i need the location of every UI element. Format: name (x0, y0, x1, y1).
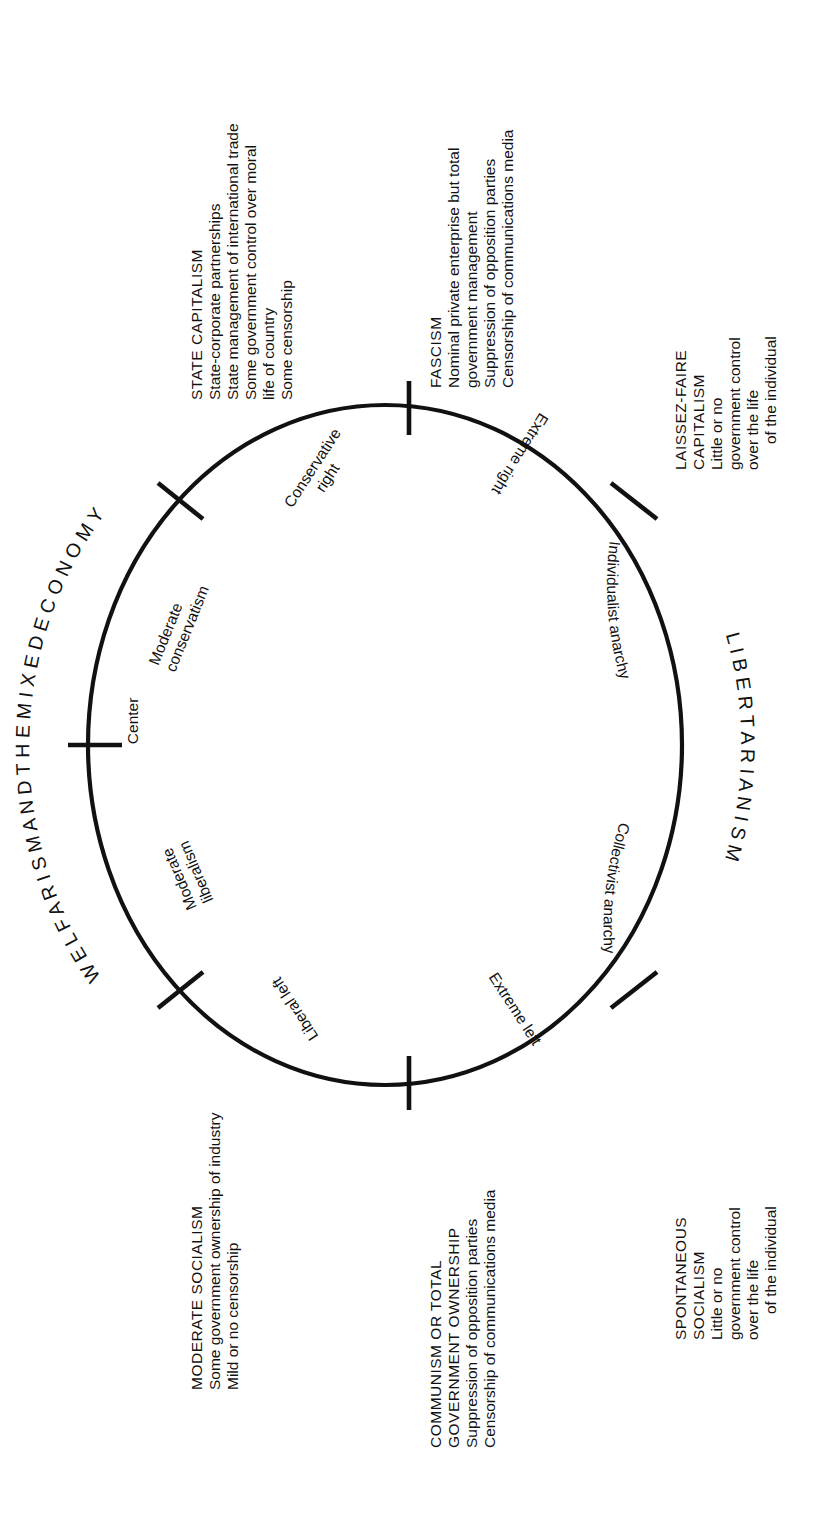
laissez-faire-line-1: of the individual (762, 318, 780, 444)
circle-outline (88, 405, 682, 1085)
fascism-line-1: government management (463, 130, 481, 388)
communism-heading2: GOVERNMENT OWNERSHIP (445, 1190, 463, 1448)
individualist-anarchy-label: Individualist anarchy (604, 540, 634, 681)
block-spontaneous-socialism: SPONTANEOUS SOCIALISM Little or no gover… (672, 1188, 780, 1340)
spontaneous-socialism-heading: SPONTANEOUS SOCIALISM (672, 1188, 708, 1340)
state-capitalism-line-3: life of country (260, 123, 278, 400)
fascism-line-3: Censorship of communications media (499, 130, 517, 388)
communism-line-1: Censorship of communications media (481, 1190, 499, 1448)
laissez-faire-heading: LAISSEZ-FAIRE CAPITALISM (672, 318, 708, 470)
svg-text:Individualist anarchy: Individualist anarchy (604, 540, 634, 681)
moderate-socialism-heading: MODERATE SOCIALISM (188, 1113, 206, 1390)
laissez-faire-line-0: Little or no government control over the… (708, 318, 762, 470)
block-laissez-faire-capitalism: LAISSEZ-FAIRE CAPITALISM Little or no go… (672, 318, 780, 470)
communism-line-0: Suppression of opposition parties (463, 1190, 481, 1448)
state-capitalism-heading: STATE CAPITALISM (188, 123, 206, 400)
svg-text:Collectivist anarchy: Collectivist anarchy (600, 821, 633, 954)
fascism-line-2: Suppression of opposition parties (481, 130, 499, 388)
fascism-line-0: Nominal private enterprise but total (445, 130, 463, 388)
tick-spontaneous-socialism (611, 972, 657, 1008)
spontaneous-socialism-line-1: of the individual (762, 1188, 780, 1314)
state-capitalism-line-2: Some government control over moral (242, 123, 260, 400)
communism-heading: COMMUNISM OR TOTAL (427, 1190, 445, 1448)
political-circle-diagram: W E L F A R I S M A N D T H E M I X E D … (0, 0, 824, 1521)
tick-laissez-faire (611, 483, 657, 519)
block-fascism: FASCISM Nominal private enterprise but t… (427, 130, 517, 388)
tick-moderate-socialism (158, 972, 203, 1008)
moderate-socialism-line-1: Mild or no censorship (224, 1113, 242, 1390)
block-communism: COMMUNISM OR TOTAL GOVERNMENT OWNERSHIP … (427, 1190, 499, 1448)
state-capitalism-line-1: State management of international trade (224, 123, 242, 400)
spontaneous-socialism-line-0: Little or no government control over the… (708, 1188, 762, 1340)
libertarianism-arc-label: L I B E R T A R I A N I S M (721, 630, 759, 864)
collectivist-anarchy-label: Collectivist anarchy (600, 821, 633, 954)
state-capitalism-line-0: State-corporate partnerships (206, 123, 224, 400)
state-capitalism-line-4: Some censorship (278, 123, 296, 400)
block-state-capitalism: STATE CAPITALISM State-corporate partner… (188, 123, 296, 400)
moderate-socialism-line-0: Some government ownership of industry (206, 1113, 224, 1390)
tick-marks (68, 381, 657, 1110)
svg-text:L I B E R T A R I A N I S M: L I B E R T A R I A N I S M (721, 630, 759, 864)
fascism-heading: FASCISM (427, 130, 445, 388)
inner-label-center: Center (124, 688, 142, 754)
center-line1: Center (124, 688, 142, 754)
block-moderate-socialism: MODERATE SOCIALISM Some government owner… (188, 1113, 242, 1390)
